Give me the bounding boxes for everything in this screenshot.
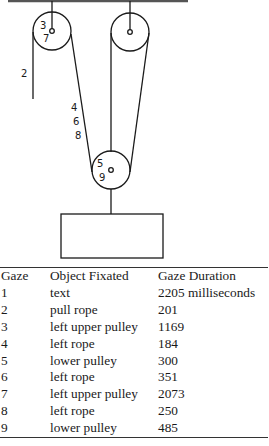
label-9: 9 [99,172,105,183]
table-row: 8left rope250 [0,403,268,420]
table-header-row: Gaze Object Fixated Gaze Duration [0,268,268,285]
cell-duration: 485 [158,420,268,437]
table-row: 3left upper pulley1169 [0,319,268,336]
cell-duration: 351 [158,369,268,386]
table-row: 1text2205 milliseconds [0,285,268,302]
cell-object: left upper pulley [50,319,158,336]
cell-duration: 2205 milliseconds [158,285,268,302]
cell-duration: 300 [158,353,268,370]
cell-gaze: 7 [0,386,50,403]
cell-gaze: 5 [0,353,50,370]
cell-object: pull rope [50,302,158,319]
right-upper-pulley [111,1,149,51]
label-6: 6 [73,116,79,127]
cell-object: left upper pulley [50,386,158,403]
cell-duration: 1169 [158,319,268,336]
cell-duration: 2073 [158,386,268,403]
cell-object: lower pulley [50,353,158,370]
weight-box [61,214,163,258]
label-2: 2 [21,68,27,79]
label-3: 3 [40,20,46,31]
right-rope [130,33,149,172]
table-row: 4left rope184 [0,336,268,353]
header-gaze: Gaze [0,268,50,285]
label-8: 8 [75,130,81,141]
cell-gaze: 9 [0,420,50,437]
cell-object: left rope [50,336,158,353]
cell-object: left rope [50,369,158,386]
cell-gaze: 4 [0,336,50,353]
cell-gaze: 3 [0,319,50,336]
cell-gaze: 8 [0,403,50,420]
cell-object: lower pulley [50,420,158,437]
label-4: 4 [71,102,77,113]
table-row: 6left rope351 [0,369,268,386]
table-row: 9lower pulley485 [0,420,268,437]
left-upper-pulley [33,1,71,50]
table-bottom-rule [0,437,268,438]
label-7: 7 [43,33,49,44]
cell-gaze: 2 [0,302,50,319]
cell-gaze: 6 [0,369,50,386]
cell-duration: 250 [158,403,268,420]
cell-duration: 184 [158,336,268,353]
pulley-diagram: 3 7 2 4 6 8 5 9 [0,0,269,262]
header-object: Object Fixated [50,268,158,285]
cell-object: text [50,285,158,302]
table-row: 5lower pulley300 [0,353,268,370]
cell-object: left rope [50,403,158,420]
cell-gaze: 1 [0,285,50,302]
header-duration: Gaze Duration [158,268,268,285]
table-row: 7left upper pulley2073 [0,386,268,403]
cell-duration: 201 [158,302,268,319]
table-row: 2pull rope201 [0,302,268,319]
label-5: 5 [97,158,103,169]
gaze-table: Gaze Object Fixated Gaze Duration 1text2… [0,267,269,438]
